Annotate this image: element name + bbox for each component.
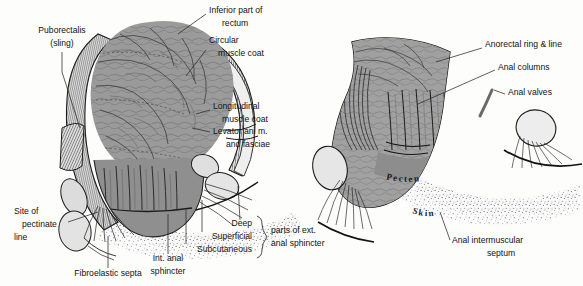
- label-subcutaneous: Subcutaneous: [197, 244, 252, 254]
- label-anal-valves: Anal valves: [508, 87, 552, 97]
- label-levator-ani-line1: Levator ani m.: [213, 126, 267, 136]
- label-circular-muscle-line1: Circular: [209, 35, 239, 45]
- label-intermuscular-septum-line2: septum: [487, 248, 515, 258]
- label-pectinate-line1: Site of: [14, 206, 39, 216]
- label-fibroelastic-septa: Fibroelastic septa: [74, 268, 142, 278]
- label-longitudinal-muscle-line1: Longitudinal: [213, 101, 259, 111]
- label-pectinate-line3: line: [14, 232, 28, 242]
- label-internal-sphincter-line1: Int. anal: [153, 253, 184, 263]
- label-pectinate-line2: pectinate: [22, 219, 57, 229]
- label-inferior-rectum-line1: Inferior part of: [209, 5, 263, 15]
- label-parts-ext-sphincter-line2: anal sphincter: [271, 238, 325, 248]
- label-inferior-rectum-line2: rectum: [222, 18, 248, 28]
- label-superficial: Superficial: [212, 231, 252, 241]
- label-parts-ext-sphincter-line1: parts of ext.: [271, 225, 316, 235]
- anatomical-figure: Pecten Skin: [0, 0, 583, 286]
- label-levator-ani-line2: and fasciae: [226, 139, 270, 149]
- label-deep: Deep: [231, 218, 252, 228]
- label-internal-sphincter-line2: sphincter: [151, 266, 186, 276]
- label-anorectal-ring-and-line: Anorectal ring & line: [485, 39, 562, 49]
- label-longitudinal-muscle-line2: muscle coat: [222, 114, 268, 124]
- label-anal-columns: Anal columns: [498, 62, 550, 72]
- label-puborectalis-line2: (sling): [50, 38, 74, 48]
- label-circular-muscle-line2: muscle coat: [218, 48, 264, 58]
- label-intermuscular-septum-line1: Anal intermuscular: [452, 235, 523, 245]
- label-puborectalis-line1: Puborectalis: [38, 25, 85, 35]
- puborectalis-sling-shape: [60, 123, 84, 170]
